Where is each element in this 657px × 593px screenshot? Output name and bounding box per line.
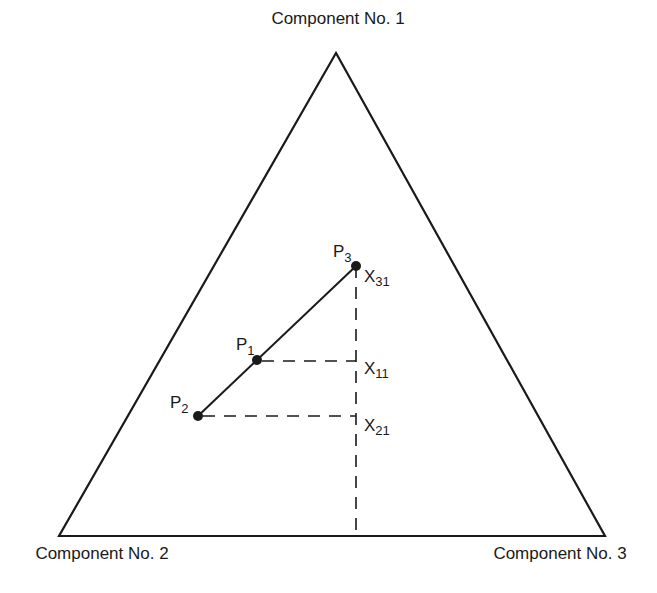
- vertex-label-component-1: Component No. 1: [271, 9, 404, 28]
- ternary-diagram: Component No. 1 Component No. 2 Componen…: [0, 0, 657, 593]
- projection-lines: [203, 266, 356, 536]
- vertex-label-component-2: Component No. 2: [35, 544, 168, 563]
- point-p2: [193, 411, 203, 421]
- label-x11: X11: [364, 359, 389, 381]
- label-p2: P2: [170, 393, 189, 416]
- label-p3: P3: [333, 242, 352, 265]
- label-x31: X31: [364, 267, 390, 289]
- label-x21: X21: [364, 416, 390, 438]
- tie-line: [198, 266, 356, 416]
- label-p1: P1: [236, 335, 255, 358]
- ternary-triangle: [59, 53, 605, 536]
- vertex-label-component-3: Component No. 3: [493, 544, 626, 563]
- point-p3: [351, 261, 361, 271]
